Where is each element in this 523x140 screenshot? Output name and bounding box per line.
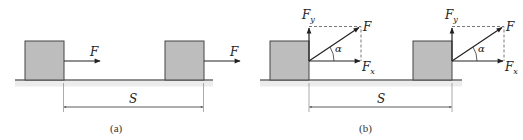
fy-label: Fy xyxy=(444,8,458,24)
work-force-diagram: F F S (a) α F Fy Fx xyxy=(0,0,523,140)
fx-label: Fx xyxy=(504,60,518,76)
distance-label: S xyxy=(377,92,385,106)
force-decomposition-start: α F Fy Fx xyxy=(270,8,375,80)
angle-arc xyxy=(330,47,334,61)
f-label: F xyxy=(505,20,515,34)
panel-b-caption: (b) xyxy=(359,122,372,135)
ground-shade xyxy=(15,81,213,87)
block-start xyxy=(25,41,64,80)
panel-a-caption: (a) xyxy=(110,122,123,135)
panel-a: F F S (a) xyxy=(15,41,240,135)
angle-label: α xyxy=(478,43,485,54)
ground-shade xyxy=(260,81,462,87)
angle-arc xyxy=(473,47,477,61)
fy-label: Fy xyxy=(301,8,315,24)
force-label-end: F xyxy=(229,45,239,59)
force-label-start: F xyxy=(89,45,99,59)
fx-label: Fx xyxy=(361,60,375,76)
block-start xyxy=(270,41,309,80)
distance-label: S xyxy=(129,92,137,106)
block-end xyxy=(413,41,452,80)
f-label: F xyxy=(362,20,372,34)
force-decomposition-end: α F Fy Fx xyxy=(413,8,518,80)
block-end xyxy=(165,41,204,80)
angle-label: α xyxy=(335,43,342,54)
panel-b: α F Fy Fx α F Fy Fx xyxy=(260,8,518,135)
